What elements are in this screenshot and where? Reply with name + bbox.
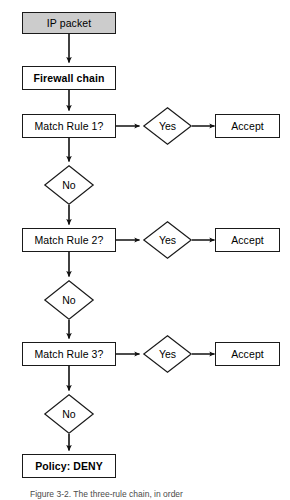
node-policy-deny: Policy: DENY xyxy=(22,454,116,478)
figure-caption: Figure 3-2. The three-rule chain, in ord… xyxy=(30,489,280,500)
node-match-rule-3: Match Rule 3? xyxy=(22,342,116,366)
node-accept-2: Accept xyxy=(215,228,280,252)
decision-yes-3: Yes xyxy=(143,335,192,373)
decision-no-2: No xyxy=(44,280,94,320)
node-accept-3: Accept xyxy=(215,342,280,366)
node-accept-1: Accept xyxy=(215,114,280,138)
decision-no-2-label: No xyxy=(44,280,94,320)
node-match-rule-2: Match Rule 2? xyxy=(22,228,116,252)
decision-no-1-label: No xyxy=(44,165,94,205)
node-accept-2-label: Accept xyxy=(231,235,264,246)
node-accept-1-label: Accept xyxy=(231,121,264,132)
node-match-rule-3-label: Match Rule 3? xyxy=(34,349,103,360)
decision-no-3-label: No xyxy=(44,394,94,434)
node-firewall-chain-label: Firewall chain xyxy=(34,73,105,84)
node-accept-3-label: Accept xyxy=(231,349,264,360)
node-match-rule-1-label: Match Rule 1? xyxy=(34,121,103,132)
decision-yes-2-label: Yes xyxy=(143,221,192,259)
decision-yes-1: Yes xyxy=(143,107,192,145)
decision-no-1: No xyxy=(44,165,94,205)
node-match-rule-2-label: Match Rule 2? xyxy=(34,235,103,246)
node-ip-packet: IP packet xyxy=(22,12,116,34)
decision-no-3: No xyxy=(44,394,94,434)
decision-yes-1-label: Yes xyxy=(143,107,192,145)
node-policy-deny-label: Policy: DENY xyxy=(35,461,103,472)
node-ip-packet-label: IP packet xyxy=(47,18,91,29)
decision-yes-2: Yes xyxy=(143,221,192,259)
node-match-rule-1: Match Rule 1? xyxy=(22,114,116,138)
node-firewall-chain: Firewall chain xyxy=(22,66,116,90)
decision-yes-3-label: Yes xyxy=(143,335,192,373)
